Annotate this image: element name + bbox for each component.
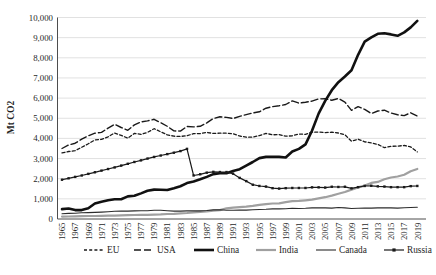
x-tick-label: 2015: [386, 222, 396, 240]
legend-item-russia: Russia: [384, 245, 432, 255]
x-tick-label: 2013: [373, 222, 383, 240]
series-russia-marker: [278, 187, 280, 189]
series-russia-marker: [403, 186, 405, 188]
x-tick-label: 2001: [294, 223, 304, 241]
series-russia-marker: [146, 157, 148, 159]
series-russia-marker: [74, 176, 76, 178]
series-russia-marker: [252, 184, 254, 186]
series-china-line: [62, 21, 417, 210]
legend-label: USA: [157, 245, 176, 255]
x-tick-label: 2007: [334, 222, 344, 240]
series-russia-marker: [331, 186, 333, 188]
series-canada-line: [62, 207, 417, 214]
series-russia-marker: [416, 185, 418, 187]
series-russia-marker: [383, 185, 385, 187]
x-tick-label: 1975: [123, 222, 133, 240]
x-tick-label: 1973: [110, 222, 120, 240]
series-russia-marker: [67, 177, 69, 179]
series-russia-marker: [317, 186, 319, 188]
x-tick-label: 2009: [347, 222, 357, 240]
series-russia-marker: [107, 168, 109, 170]
legend-sample-marker: [392, 248, 395, 251]
series-russia-marker: [298, 187, 300, 189]
x-tick-label: 1985: [189, 222, 199, 240]
series-russia-marker: [173, 152, 175, 154]
y-tick-label: 7,000: [33, 73, 53, 83]
y-tick-label: 0: [49, 214, 54, 224]
series-russia-marker: [396, 186, 398, 188]
y-tick-label: 3,000: [33, 154, 53, 164]
legend-label: EU: [107, 245, 120, 255]
x-tick-label: 1969: [84, 222, 94, 240]
y-tick-label: 1,000: [33, 194, 53, 204]
x-tick-label: 1981: [162, 223, 172, 241]
legend-label: India: [279, 245, 298, 255]
series-russia-marker: [61, 179, 63, 181]
series-russia-marker: [133, 161, 135, 163]
series-russia-marker: [140, 159, 142, 161]
series-russia-marker: [238, 177, 240, 179]
series-russia-marker: [206, 171, 208, 173]
series-russia-marker: [344, 186, 346, 188]
series-russia-marker: [94, 171, 96, 173]
series-russia-marker: [285, 187, 287, 189]
legend-label: China: [217, 245, 239, 255]
series-russia-marker: [212, 171, 214, 173]
series-russia-marker: [291, 187, 293, 189]
plot-series: [61, 21, 419, 217]
series-russia-marker: [192, 174, 194, 176]
series-russia-marker: [311, 186, 313, 188]
y-tick-label: 2,000: [33, 174, 53, 184]
co2-line-chart: 01,0002,0003,0004,0005,0006,0007,0008,00…: [0, 0, 436, 275]
chart-figure: 01,0002,0003,0004,0005,0006,0007,0008,00…: [0, 0, 436, 275]
x-tick-label: 1995: [255, 222, 265, 240]
series-russia-marker: [232, 172, 234, 174]
legend-label: Russia: [407, 245, 432, 255]
series-russia-marker: [160, 154, 162, 156]
series-russia-marker: [87, 173, 89, 175]
x-axis-labels: 1965196719691971197319751977197919811983…: [57, 222, 422, 240]
series-russia-marker: [120, 164, 122, 166]
legend-item-usa: USA: [134, 245, 176, 255]
gridlines: [58, 18, 427, 199]
y-tick-label: 10,000: [29, 13, 54, 23]
x-tick-label: 1991: [228, 223, 238, 241]
series-russia-marker: [324, 186, 326, 188]
series-russia-marker: [153, 156, 155, 158]
legend-item-china: China: [194, 245, 239, 255]
series-russia-marker: [245, 180, 247, 182]
legend-item-india: India: [256, 245, 298, 255]
legend-label: Canada: [339, 245, 367, 255]
y-tick-label: 9,000: [33, 33, 53, 43]
series-russia-marker: [390, 186, 392, 188]
x-tick-label: 2005: [320, 222, 330, 240]
series-russia-marker: [127, 163, 129, 165]
series-russia-marker: [357, 186, 359, 188]
y-tick-label: 8,000: [33, 53, 53, 63]
series-india-line: [62, 169, 417, 217]
series-russia-marker: [199, 173, 201, 175]
series-russia-marker: [410, 185, 412, 187]
x-tick-label: 1983: [176, 222, 186, 240]
series-russia-marker: [258, 185, 260, 187]
series-russia-marker: [186, 148, 188, 150]
x-tick-label: 1987: [202, 222, 212, 240]
series-russia-marker: [337, 186, 339, 188]
series-russia-marker: [166, 153, 168, 155]
x-tick-label: 1965: [57, 222, 67, 240]
series-russia-marker: [100, 169, 102, 171]
series-russia-marker: [271, 187, 273, 189]
series-russia-marker: [219, 171, 221, 173]
x-tick-label: 1977: [136, 222, 146, 240]
x-tick-label: 2003: [307, 222, 317, 240]
series-russia-marker: [377, 185, 379, 187]
x-tick-label: 2017: [399, 222, 409, 240]
x-tick-label: 1971: [97, 223, 107, 241]
x-tick-label: 1997: [268, 222, 278, 240]
series-russia-marker: [225, 171, 227, 173]
series-russia-marker: [363, 185, 365, 187]
series-russia-marker: [265, 185, 267, 187]
legend: EUUSAChinaIndiaCanadaRussia: [84, 245, 432, 255]
x-tick-label: 1967: [70, 222, 80, 240]
x-tick-label: 1999: [281, 222, 291, 240]
